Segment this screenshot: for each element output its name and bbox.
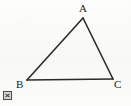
triangle-shape (0, 0, 131, 106)
triangle-edge-bc (27, 79, 113, 80)
triangle-edge-ab (27, 18, 83, 80)
triangle-edge-ca (83, 18, 113, 79)
broken-image-icon (3, 91, 12, 100)
geometry-figure-canvas: A B C (0, 0, 131, 106)
vertex-label-b: B (16, 79, 23, 90)
triangle-edge-group (27, 18, 113, 80)
vertex-label-c: C (114, 79, 121, 90)
vertex-label-a: A (79, 3, 87, 14)
